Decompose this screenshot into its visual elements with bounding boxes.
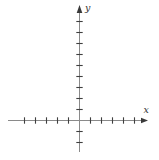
figure: x y xyxy=(0,0,159,160)
x-axis-label: x xyxy=(144,104,150,115)
x-axis-arrowhead xyxy=(141,118,148,124)
y-axis-arrowhead xyxy=(77,5,83,13)
y-axis-label: y xyxy=(84,2,91,13)
coordinate-plane: x y xyxy=(0,0,159,160)
